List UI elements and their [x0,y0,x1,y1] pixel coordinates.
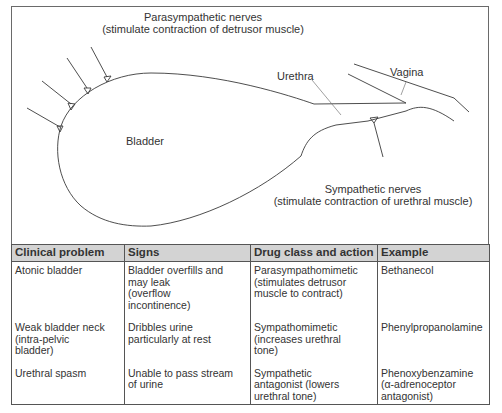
sympathetic-subtitle: (stimulate contraction of urethral muscl… [255,195,491,207]
sympathetic-nerve-ending [370,117,378,123]
clinical-problems-table: Clinical problem Signs Drug class and ac… [11,244,490,405]
header-drug-class: Drug class and action [251,245,378,262]
cell-drug: Sympathomimetic (increases urethral tone… [251,319,378,365]
bladder-diagram [12,7,490,245]
parasympathetic-nerve-4 [91,47,107,77]
urethra-pointer [312,80,341,115]
urethra-label: Urethra [277,70,314,82]
cell-signs: Dribbles urine particularly at rest [125,319,251,365]
anatomy-diagram-panel: Parasympathetic nerves (stimulate contra… [11,6,489,244]
nerve-ending-3 [84,88,91,94]
table-row: Urethral spasm Unable to pass stream of … [12,365,490,405]
vagina-pointer [401,82,406,95]
header-clinical-problem: Clinical problem [12,245,125,262]
clinical-table-container: Clinical problem Signs Drug class and ac… [11,244,489,405]
cell-problem: Weak bladder neck (intra-pelvic bladder) [12,319,125,365]
cell-example: Bethanecol [378,262,490,320]
cell-problem: Atonic bladder [12,262,125,320]
cell-signs: Unable to pass stream of urine [125,365,251,405]
header-example: Example [378,245,490,262]
sympathetic-label: Sympathetic nerves (stimulate contractio… [255,183,491,207]
parasympathetic-subtitle: (stimulate contraction of detrusor muscl… [74,23,332,35]
table-row: Weak bladder neck (intra-pelvic bladder)… [12,319,490,365]
parasympathetic-label: Parasympathetic nerves (stimulate contra… [74,11,332,35]
parasympathetic-nerve-2 [42,81,71,104]
parasympathetic-nerve-1 [27,108,60,127]
vagina-label: Vagina [390,66,423,78]
nerve-ending-2 [68,103,75,110]
parasympathetic-nerve-3 [67,58,87,88]
cell-drug: Parasympathomimetic (stimulates detrusor… [251,262,378,320]
table-row: Atonic bladder Bladder overfills and may… [12,262,490,320]
sympathetic-title: Sympathetic nerves [255,183,491,195]
parasympathetic-title: Parasympathetic nerves [74,11,332,23]
table-header-row: Clinical problem Signs Drug class and ac… [12,245,490,262]
sympathetic-nerve [374,123,383,157]
bladder-label: Bladder [126,135,164,147]
cell-example: Phenoxybenzamine (α-adrenoceptor antagon… [378,365,490,405]
header-signs: Signs [125,245,251,262]
cell-problem: Urethral spasm [12,365,125,405]
cell-example: Phenylpropanolamine [378,319,490,365]
cell-signs: Bladder overfills and may leak (overflow… [125,262,251,320]
cell-drug: Sympathetic antagonist (lowers urethral … [251,365,378,405]
